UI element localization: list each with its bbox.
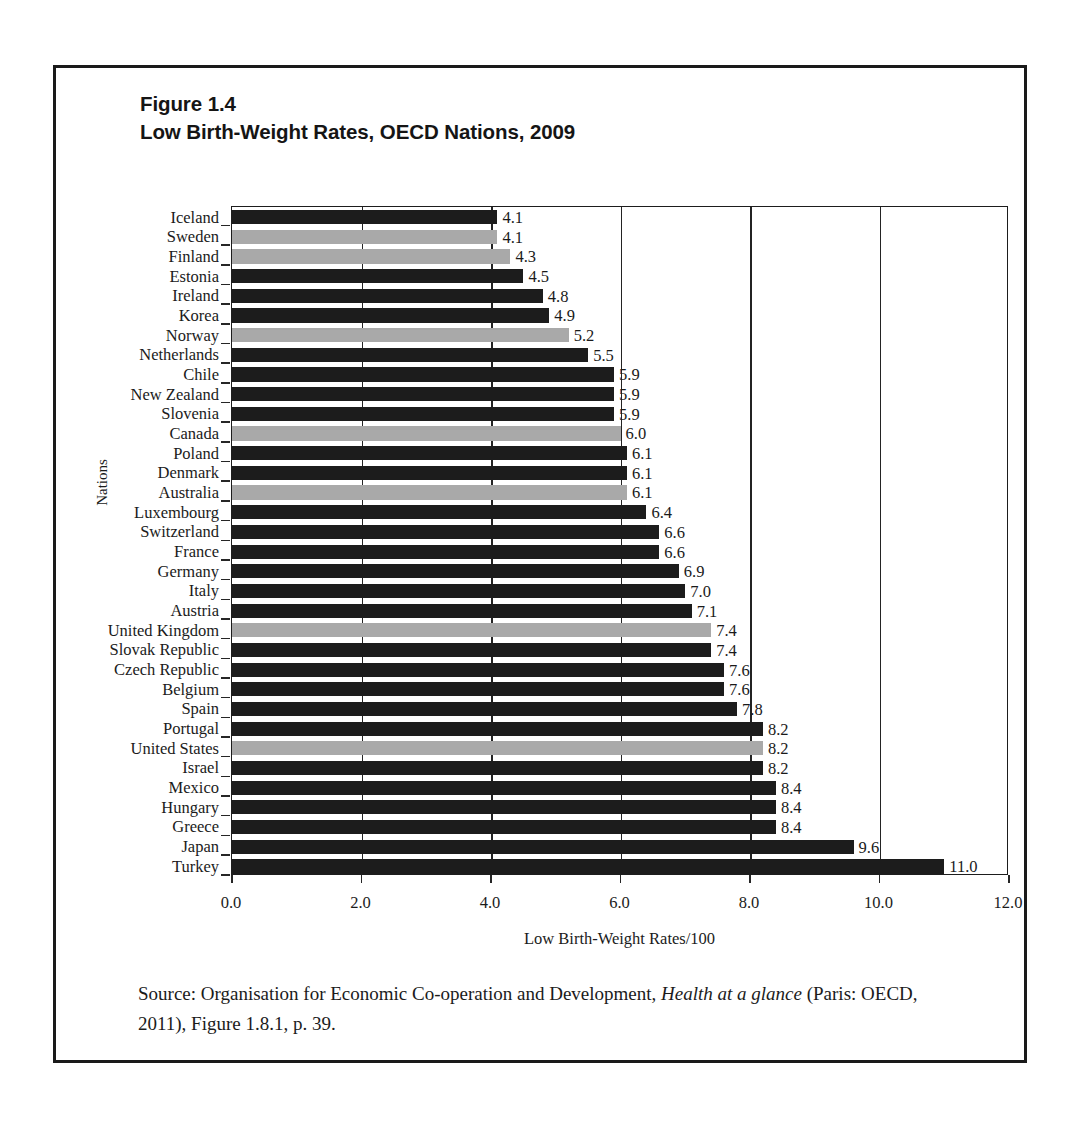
bar-value-label: 4.3 <box>515 247 536 267</box>
bar-netherlands[interactable] <box>232 348 588 362</box>
x-axis-tick <box>231 875 233 883</box>
category-tick <box>221 717 230 719</box>
category-tick <box>221 284 230 286</box>
bar-row: 4.1 <box>232 227 1009 247</box>
category-label-mexico: Mexico <box>56 778 219 798</box>
category-tick <box>221 599 230 601</box>
bar-germany[interactable] <box>232 564 679 578</box>
category-tick <box>221 441 230 443</box>
bar-row: 5.5 <box>232 345 1009 365</box>
category-label-turkey: Turkey <box>56 857 219 877</box>
bar-australia[interactable] <box>232 485 627 499</box>
bar-portugal[interactable] <box>232 722 763 736</box>
bar-new-zealand[interactable] <box>232 387 614 401</box>
plot-area: 4.14.14.34.54.84.95.25.55.95.95.96.06.16… <box>231 206 1008 875</box>
category-tick <box>221 697 230 699</box>
bar-row: 8.4 <box>232 778 1009 798</box>
category-tick <box>221 638 230 640</box>
category-tick <box>221 264 230 266</box>
bar-belgium[interactable] <box>232 682 724 696</box>
bar-united-states[interactable] <box>232 741 763 755</box>
bar-switzerland[interactable] <box>232 525 659 539</box>
category-label-canada: Canada <box>56 424 219 444</box>
x-axis-tick-label: 10.0 <box>849 893 909 913</box>
bar-hungary[interactable] <box>232 800 776 814</box>
category-label-ireland: Ireland <box>56 286 219 306</box>
bar-row: 6.1 <box>232 482 1009 502</box>
category-tick <box>221 225 230 227</box>
x-axis-title: Low Birth-Weight Rates/100 <box>231 929 1008 949</box>
bar-denmark[interactable] <box>232 466 627 480</box>
category-label-portugal: Portugal <box>56 719 219 739</box>
x-axis-tick-label: 6.0 <box>590 893 650 913</box>
category-tick <box>221 835 230 837</box>
bar-row: 4.8 <box>232 286 1009 306</box>
bar-row: 7.0 <box>232 581 1009 601</box>
bar-spain[interactable] <box>232 702 737 716</box>
bar-row: 5.2 <box>232 325 1009 345</box>
source-publication-title: Health at a glance <box>661 983 802 1004</box>
x-axis-tick-label: 8.0 <box>719 893 779 913</box>
bar-row: 7.4 <box>232 620 1009 640</box>
bar-value-label: 8.2 <box>768 739 789 759</box>
bar-korea[interactable] <box>232 308 549 322</box>
category-tick <box>221 520 230 522</box>
bar-france[interactable] <box>232 545 659 559</box>
bar-norway[interactable] <box>232 328 569 342</box>
bar-row: 9.6 <box>232 837 1009 857</box>
bar-value-label: 4.5 <box>528 267 549 287</box>
bar-austria[interactable] <box>232 604 692 618</box>
category-label-czech-republic: Czech Republic <box>56 660 219 680</box>
bar-slovak-republic[interactable] <box>232 643 711 657</box>
bar-greece[interactable] <box>232 820 776 834</box>
bar-row: 6.9 <box>232 561 1009 581</box>
bar-row: 6.1 <box>232 443 1009 463</box>
x-axis-tick <box>749 875 751 883</box>
bar-iceland[interactable] <box>232 210 497 224</box>
category-label-united-states: United States <box>56 739 219 759</box>
category-tick <box>221 323 230 325</box>
bar-japan[interactable] <box>232 840 854 854</box>
category-label-poland: Poland <box>56 444 219 464</box>
category-label-australia: Australia <box>56 483 219 503</box>
category-tick <box>221 343 230 345</box>
bar-chile[interactable] <box>232 367 614 381</box>
category-tick <box>221 421 230 423</box>
bar-finland[interactable] <box>232 249 510 263</box>
chart-block: Nations 4.14.14.34.54.84.95.25.55.95.95.… <box>56 68 1024 1060</box>
bar-ireland[interactable] <box>232 289 543 303</box>
bar-israel[interactable] <box>232 761 763 775</box>
category-label-united-kingdom: United Kingdom <box>56 621 219 641</box>
bar-united-kingdom[interactable] <box>232 623 711 637</box>
bar-row: 6.0 <box>232 423 1009 443</box>
category-tick <box>221 736 230 738</box>
category-tick <box>221 244 230 246</box>
bar-value-label: 7.0 <box>690 582 711 602</box>
category-tick <box>221 854 230 856</box>
bar-value-label: 8.2 <box>768 759 789 779</box>
bar-slovenia[interactable] <box>232 407 614 421</box>
bar-turkey[interactable] <box>232 859 944 873</box>
bar-value-label: 5.2 <box>574 326 595 346</box>
category-tick <box>221 815 230 817</box>
bar-value-label: 5.5 <box>593 346 614 366</box>
bar-czech-republic[interactable] <box>232 663 724 677</box>
bar-row: 5.9 <box>232 364 1009 384</box>
x-axis-tick <box>490 875 492 883</box>
bar-row: 4.1 <box>232 207 1009 227</box>
bar-value-label: 7.6 <box>729 661 750 681</box>
bar-poland[interactable] <box>232 446 627 460</box>
bar-row: 4.9 <box>232 305 1009 325</box>
bar-estonia[interactable] <box>232 269 523 283</box>
bar-italy[interactable] <box>232 584 685 598</box>
bar-mexico[interactable] <box>232 781 776 795</box>
bar-sweden[interactable] <box>232 230 497 244</box>
bar-canada[interactable] <box>232 426 621 440</box>
bar-value-label: 4.9 <box>554 306 575 326</box>
category-label-slovenia: Slovenia <box>56 404 219 424</box>
category-label-finland: Finland <box>56 247 219 267</box>
bar-value-label: 6.1 <box>632 464 653 484</box>
bar-luxembourg[interactable] <box>232 505 646 519</box>
bar-value-label: 4.8 <box>548 287 569 307</box>
bar-value-label: 8.2 <box>768 720 789 740</box>
